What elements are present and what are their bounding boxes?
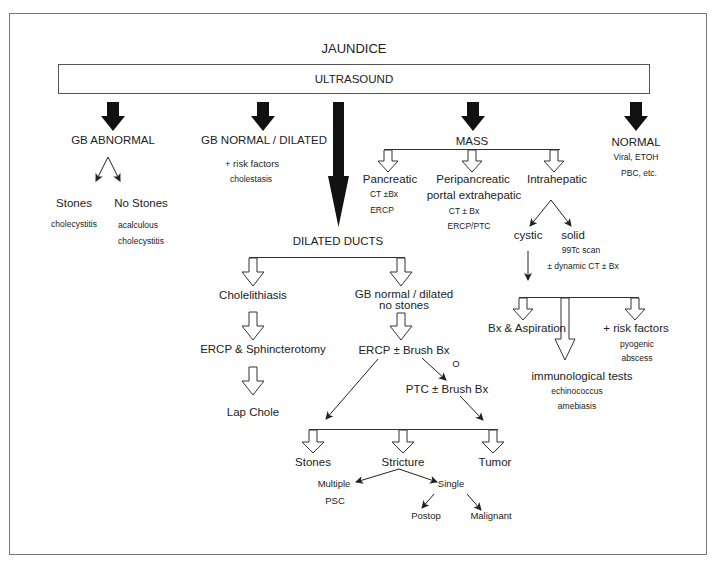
mass-label: MASS [456, 136, 489, 148]
echinococcus-label: echinococcus [551, 387, 603, 396]
solid-dynamic-ct-bx: ± dynamic CT ± Bx [547, 262, 619, 271]
diagram-title: JAUNDICE [321, 42, 386, 55]
normal-pbc-etc: PBC, etc. [621, 169, 657, 178]
psc-label: PSC [325, 496, 345, 506]
ercp-brush-bx-label: ERCP ± Brush Bx [358, 345, 449, 357]
no-stones-label: No Stones [114, 198, 168, 210]
arrow-ercp-to-ptc-icon [422, 358, 446, 380]
pyogenic-label: pyogenic [620, 340, 654, 349]
gb-normal-dilated-label: GB NORMAL / DILATED [201, 135, 327, 147]
arrow-ercp-to-stones-icon [326, 359, 378, 419]
gb-normal-dilated-no-stones-label: GB normal / dilated no stones [355, 289, 453, 311]
arrow-to-malignant-icon [467, 494, 481, 510]
arrow-to-solid-icon [551, 200, 571, 226]
gb-abnormal-label: GB ABNORMAL [71, 135, 155, 147]
cystic-label: cystic [514, 230, 543, 242]
amebiasis-label: amebiasis [558, 402, 596, 411]
normal-label: NORMAL [611, 137, 660, 149]
solid-arrow-mass-icon [461, 102, 485, 131]
portal-extrahepatic-label: portal extrahepatic [427, 190, 522, 202]
hollow-arrow-stricture-icon [392, 430, 414, 453]
solid-arrow-gb-abnormal-icon [101, 102, 125, 131]
hollow-arrow-gb-normal-dilated-icon [390, 258, 412, 286]
hollow-arrow-ercp-brush-icon [390, 313, 412, 340]
solid-arrow-gb-normal-icon [251, 102, 275, 131]
cholelithiasis-label: Cholelithiasis [219, 290, 287, 302]
peripancreatic-ercp-ptc: ERCP/PTC [448, 222, 491, 231]
hollow-arrow-stones-icon [302, 430, 324, 453]
hollow-arrow-peripancreatic-icon [462, 150, 482, 172]
hollow-arrow-pancreatic-icon [378, 150, 398, 172]
abscess-label: abscess [621, 354, 652, 363]
malignant-label: Malignant [470, 511, 511, 521]
hollow-arrow-intrahepatic-icon [544, 150, 564, 172]
gb-abnormal-split-arrows-icon [96, 157, 120, 181]
ercp-sphincterotomy-label: ERCP & Sphincterotomy [200, 344, 326, 356]
hollow-arrow-bx-aspiration-icon [513, 298, 533, 320]
solid-99tc-scan: 99Tc scan [562, 246, 600, 255]
dilated-ducts-label: DILATED DUCTS [293, 236, 384, 248]
cystic-risk-factors-label: + risk factors [603, 323, 669, 335]
gb-normal-risk-factors: + risk factors [225, 159, 279, 169]
lap-chole-label: Lap Chole [227, 407, 279, 419]
solid-arrow-dilated-ducts-icon [328, 102, 349, 227]
arrow-ptc-to-tumor-icon [460, 396, 483, 420]
bx-aspiration-label: Bx & Aspiration [488, 323, 566, 335]
solid-label: solid [561, 230, 585, 242]
pancreatic-ercp: ERCP [370, 206, 394, 215]
hollow-arrow-lap-chole-icon [242, 367, 264, 395]
hollow-arrow-tumor-icon [482, 430, 504, 453]
arrow-to-cystic-icon [530, 200, 551, 226]
single-label: Single [438, 479, 464, 489]
outcome-stones-label: Stones [295, 457, 331, 469]
arrow-to-postop-icon [422, 494, 434, 508]
outcome-tumor-label: Tumor [479, 457, 512, 469]
or-symbol: O [452, 359, 459, 369]
acalculous-cholecystitis-note: cholecystitis [118, 237, 164, 246]
peripancreatic-ct-bx: CT ± Bx [449, 207, 480, 216]
pancreatic-label: Pancreatic [363, 174, 417, 186]
hollow-arrow-risk-factors-icon [625, 298, 645, 320]
stones-label: Stones [56, 198, 92, 210]
hollow-arrow-ercp-sphincterotomy-icon [242, 312, 264, 340]
normal-viral-etoh: Viral, ETOH [613, 153, 658, 162]
outcome-stricture-label: Stricture [382, 457, 425, 469]
outer-frame [10, 14, 707, 555]
acalculous-note: acalculous [118, 221, 158, 230]
cholestasis-note: cholestasis [230, 175, 272, 184]
multiple-label: Multiple [318, 479, 351, 489]
hollow-arrow-cholelithiasis-icon [242, 258, 264, 286]
ultrasound-label: ULTRASOUND [315, 74, 393, 86]
cholecystitis-note: cholecystitis [51, 220, 97, 229]
immunological-tests-label: immunological tests [532, 371, 633, 383]
intrahepatic-label: Intrahepatic [527, 174, 587, 186]
arrow-to-single-icon [399, 469, 437, 482]
no-stones-line: no stones [355, 300, 453, 311]
arrow-to-multiple-icon [356, 469, 399, 482]
peripancreatic-label: Peripancreatic [436, 174, 510, 186]
postop-label: Postop [411, 511, 441, 521]
pancreatic-ct-bx: CT ±Bx [370, 190, 398, 199]
ptc-brush-bx-label: PTC ± Brush Bx [406, 384, 488, 396]
solid-arrow-normal-icon [624, 102, 648, 131]
